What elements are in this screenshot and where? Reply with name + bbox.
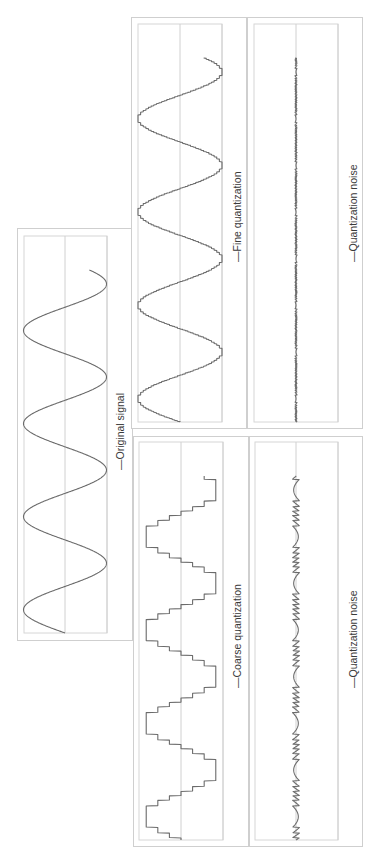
chart-figure: —Original signal —Fine quantization —Qua… [0,0,376,864]
panel-frame [250,437,363,847]
legend-coarse-quantization: —Coarse quantization [231,584,243,688]
legend-fine-quantization: —Fine quantization [231,171,243,262]
panel-frame [248,18,363,429]
legend-original-signal: —Original signal [114,393,126,470]
legend-fine-noise: —Quantization noise [347,164,359,262]
panel-coarse-quantization: —Coarse quantization [134,437,249,847]
panel-fine-quantization: —Fine quantization [132,18,247,429]
panel-fine-quantization-noise: —Quantization noise [248,18,363,429]
legend-coarse-noise: —Quantization noise [347,590,359,688]
panel-coarse-quantization-noise: —Quantization noise [250,437,363,847]
panel-original-signal: —Original signal [18,229,133,641]
